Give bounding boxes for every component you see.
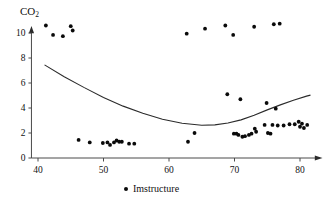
data-point bbox=[243, 134, 247, 138]
data-point bbox=[127, 142, 131, 146]
data-point bbox=[101, 141, 105, 145]
y-axis-arrowhead-icon bbox=[29, 26, 34, 33]
x-axis-arrowhead-icon bbox=[315, 155, 323, 160]
x-tick-label: 80 bbox=[295, 165, 305, 175]
data-point bbox=[302, 126, 306, 130]
data-point bbox=[69, 24, 73, 28]
data-point bbox=[271, 123, 275, 127]
legend-label: Imstructure bbox=[133, 183, 179, 194]
y-tick-label: 8 bbox=[21, 53, 26, 63]
y-tick-label: 10 bbox=[16, 28, 26, 38]
data-point bbox=[225, 92, 229, 96]
axis-ticks-group bbox=[28, 33, 300, 162]
data-point bbox=[297, 120, 301, 124]
data-point bbox=[77, 138, 81, 142]
x-tick-label: 40 bbox=[33, 165, 43, 175]
legend-marker-dot-icon bbox=[124, 187, 128, 191]
data-point bbox=[185, 32, 189, 36]
data-point bbox=[250, 132, 254, 136]
data-point bbox=[193, 131, 197, 135]
data-point bbox=[61, 34, 65, 38]
x-tick-label: 50 bbox=[99, 165, 109, 175]
data-point bbox=[223, 24, 227, 28]
data-point bbox=[274, 107, 278, 111]
data-point bbox=[305, 123, 309, 127]
chart-container: CO2 02468104050607080 Imstructure bbox=[0, 0, 329, 204]
data-point bbox=[252, 25, 256, 29]
fit-curve-group bbox=[45, 65, 311, 125]
data-point bbox=[44, 24, 48, 28]
data-point bbox=[293, 122, 297, 126]
data-point bbox=[71, 29, 75, 33]
data-point bbox=[120, 140, 124, 144]
data-point bbox=[231, 33, 235, 37]
data-point bbox=[88, 140, 92, 144]
data-point bbox=[132, 142, 136, 146]
data-points-group bbox=[44, 22, 309, 147]
y-tick-label: 4 bbox=[21, 103, 26, 113]
chart-legend: Imstructure bbox=[124, 183, 179, 194]
scatter-plot-svg: 02468104050607080 bbox=[0, 0, 329, 204]
axis-tick-labels-group: 02468104050607080 bbox=[16, 28, 305, 175]
data-point bbox=[263, 123, 267, 127]
data-point bbox=[300, 122, 304, 126]
x-tick-label: 70 bbox=[230, 165, 240, 175]
data-point bbox=[51, 33, 55, 37]
data-point bbox=[186, 140, 190, 144]
data-point bbox=[237, 133, 241, 137]
axes-group bbox=[29, 26, 323, 161]
data-point bbox=[276, 124, 280, 128]
y-tick-label: 6 bbox=[21, 78, 26, 88]
data-point bbox=[203, 27, 207, 31]
data-point bbox=[272, 22, 276, 26]
trend-curve bbox=[45, 65, 311, 125]
data-point bbox=[269, 132, 273, 136]
y-tick-label: 0 bbox=[21, 153, 26, 163]
data-point bbox=[278, 22, 282, 26]
data-point bbox=[254, 130, 258, 134]
data-point bbox=[265, 101, 269, 105]
data-point bbox=[288, 122, 292, 126]
x-tick-label: 60 bbox=[164, 165, 174, 175]
y-tick-label: 2 bbox=[21, 128, 26, 138]
data-point bbox=[108, 143, 112, 147]
data-point bbox=[239, 97, 243, 101]
data-point bbox=[282, 124, 286, 128]
